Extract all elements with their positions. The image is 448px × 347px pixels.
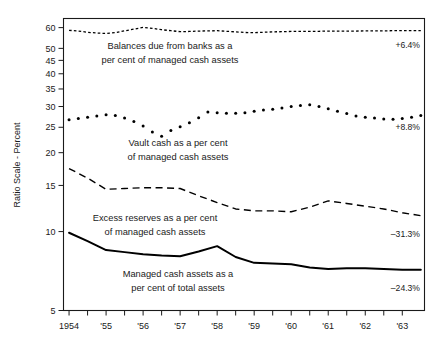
data-point: [308, 103, 311, 106]
series-label-line2: per cent of total assets: [131, 283, 225, 293]
series-label-line2: of managed cash assets: [128, 152, 229, 162]
y-tick-label: 25: [45, 122, 55, 132]
data-point: [243, 111, 246, 114]
data-point: [197, 116, 200, 119]
data-point: [345, 112, 348, 115]
data-point: [327, 107, 330, 110]
data-point: [382, 117, 385, 120]
data-point: [114, 114, 117, 117]
data-point: [290, 105, 293, 108]
data-point: [271, 108, 274, 111]
y-tick-label: 45: [45, 56, 55, 66]
data-point: [188, 121, 191, 124]
y-tick-label: 5: [50, 306, 55, 316]
data-point: [410, 116, 413, 119]
series-label-line2: of managed cash assets: [105, 227, 206, 237]
data-point: [373, 117, 376, 120]
data-point: [77, 117, 80, 120]
data-point: [169, 129, 172, 132]
x-tick-label: '58: [211, 321, 223, 331]
data-point: [105, 113, 108, 116]
data-point: [280, 107, 283, 110]
x-tick-label: '63: [396, 321, 408, 331]
series-change-label: +6.4%: [395, 40, 420, 50]
x-tick-label: 1954: [59, 321, 79, 331]
data-point: [317, 105, 320, 108]
data-point: [216, 111, 219, 114]
series-change-label: –24.3%: [391, 283, 421, 293]
y-tick-label: 35: [45, 84, 55, 94]
data-point: [253, 110, 256, 113]
y-tick-label: 30: [45, 102, 55, 112]
series-label-line1: Excess reserves as a per cent: [93, 213, 218, 223]
x-tick-label: '57: [174, 321, 186, 331]
series-change-label: +8.8%: [395, 122, 420, 132]
y-tick-label: 40: [45, 69, 55, 79]
chart-background: [0, 0, 448, 347]
series-label-line1: Vault cash as a per cent: [128, 138, 227, 148]
y-tick-label: 10: [45, 227, 55, 237]
data-point: [299, 104, 302, 107]
series-label-line1: Balances due from banks as a: [107, 41, 233, 51]
data-point: [206, 110, 209, 113]
data-point: [95, 115, 98, 118]
data-point: [336, 110, 339, 113]
y-axis-title-text: Ratio Scale - Percent: [12, 122, 22, 208]
series-change-label: –31.3%: [391, 229, 421, 239]
data-point: [419, 114, 422, 117]
data-point: [123, 117, 126, 120]
x-tick-label: '62: [359, 321, 371, 331]
data-point: [262, 108, 265, 111]
data-point: [225, 112, 228, 115]
data-point: [401, 117, 404, 120]
x-tick-label: '61: [322, 321, 334, 331]
series-label-line2: per cent of managed cash assets: [102, 55, 239, 65]
data-point: [132, 120, 135, 123]
x-tick-label: '60: [285, 321, 297, 331]
data-point: [86, 116, 89, 119]
data-point: [355, 115, 358, 118]
x-tick-label: '56: [137, 321, 149, 331]
data-point: [234, 112, 237, 115]
data-point: [392, 118, 395, 121]
x-tick-label: '55: [100, 321, 112, 331]
y-tick-label: 20: [45, 148, 55, 158]
data-point: [179, 125, 182, 128]
data-point: [151, 130, 154, 133]
series-label-line1: Managed cash assets as a: [123, 269, 234, 279]
y-axis-title: Ratio Scale - Percent: [12, 122, 22, 208]
y-tick-label: 50: [45, 44, 55, 54]
y-tick-label: 15: [45, 181, 55, 191]
y-tick-label: 60: [45, 23, 55, 33]
ratio-scale-line-chart: Ratio Scale - Percent 510152025303540455…: [0, 0, 448, 347]
chart-container: Ratio Scale - Percent 510152025303540455…: [0, 0, 448, 347]
data-point: [68, 118, 71, 121]
data-point: [142, 124, 145, 127]
data-point: [364, 116, 367, 119]
x-tick-label: '59: [248, 321, 260, 331]
